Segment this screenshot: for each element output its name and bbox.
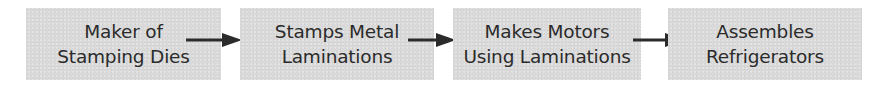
- node-label-line2: Using Laminations: [463, 44, 630, 69]
- node-label-line1: Stamps Metal: [275, 19, 399, 44]
- node-refrigerator-assembler: Assembles Refrigerators: [668, 8, 862, 80]
- arrow-right-icon: [186, 33, 242, 47]
- node-label-line1: Makes Motors: [485, 19, 610, 44]
- arrow-right-icon: [408, 33, 456, 47]
- node-motor-maker: Makes Motors Using Laminations: [453, 8, 641, 80]
- node-label-line1: Maker of: [84, 19, 162, 44]
- node-label-line2: Laminations: [282, 44, 393, 69]
- node-label-line1: Assembles: [716, 19, 813, 44]
- node-lamination-stamper: Stamps Metal Laminations: [240, 8, 434, 80]
- node-label-line2: Stamping Dies: [57, 44, 189, 69]
- node-label-line2: Refrigerators: [706, 44, 824, 69]
